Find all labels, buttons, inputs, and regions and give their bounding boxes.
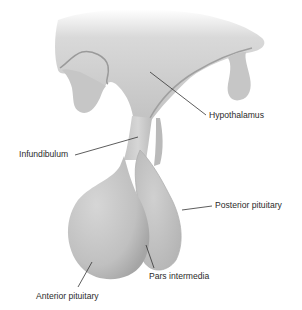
anterior-pituitary-label: Anterior pituitary [36, 292, 99, 301]
pituitary-diagram: Hypothalamus Infundibulum Posterior pitu… [0, 0, 302, 310]
infundibulum-label: Infundibulum [19, 150, 68, 159]
right-lobe [228, 52, 251, 100]
posterior-pituitary-label: Posterior pituitary [215, 201, 282, 210]
pars-tuberalis [154, 118, 163, 166]
posterior-pituitary-leader [182, 206, 212, 210]
pars-intermedia-label: Pars intermedia [149, 272, 209, 281]
infundibulum-stalk [124, 116, 152, 160]
hypothalamus-label: Hypothalamus [209, 111, 264, 120]
